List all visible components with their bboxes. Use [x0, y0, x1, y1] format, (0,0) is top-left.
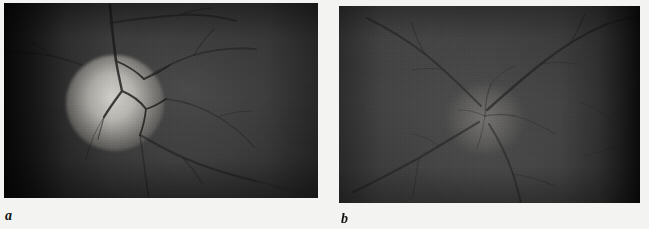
panel-label-a: a — [5, 209, 12, 223]
fundus-image-b — [339, 6, 640, 203]
panel-label-b: b — [341, 212, 348, 226]
fundus-panel-a — [4, 3, 318, 198]
fundus-panel-b — [339, 6, 640, 203]
fundus-image-a — [4, 3, 318, 198]
retina-background-b — [339, 6, 640, 203]
figure-container: a b — [0, 0, 649, 229]
retina-background-a — [4, 3, 318, 198]
